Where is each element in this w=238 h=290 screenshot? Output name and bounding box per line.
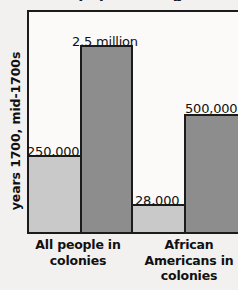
bars-layer: 250,000 2.5 million 28,000 500,000 xyxy=(29,12,238,232)
bar-value-label-all-people-mid-1700s: 2.5 million xyxy=(72,34,138,49)
bar-african-americans-mid-1700s[interactable] xyxy=(184,114,238,232)
category-label-african-americans-in-colonies: African Americans in colonies xyxy=(133,237,238,284)
bar-value-label-all-people-1700: 250,000 xyxy=(27,144,79,159)
y-axis-label: years 1700, mid-1700s xyxy=(7,31,25,231)
bar-value-label-african-americans-mid-1700s: 500,000 xyxy=(185,101,237,116)
plot-area: 250,000 2.5 million 28,000 500,000 xyxy=(27,10,238,234)
bar-all-people-mid-1700s[interactable] xyxy=(80,45,133,232)
bar-chart-figure: Colonial population growth years 1700, m… xyxy=(0,0,238,290)
category-axis-labels: All people in colonies African Americans… xyxy=(27,237,238,289)
bar-all-people-1700[interactable] xyxy=(27,155,82,232)
bar-value-label-african-americans-1700: 28,000 xyxy=(135,193,179,208)
category-label-all-people-in-colonies: All people in colonies xyxy=(23,237,133,268)
bar-african-americans-1700[interactable] xyxy=(131,204,186,232)
chart-title: Colonial population growth xyxy=(0,0,238,1)
